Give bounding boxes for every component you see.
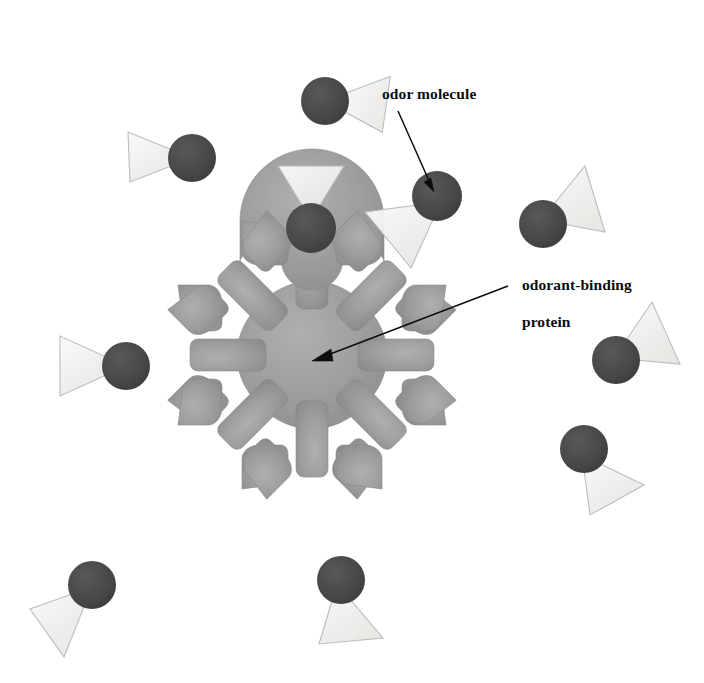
odor-molecule-circle bbox=[168, 134, 216, 182]
odor-molecule-circle bbox=[560, 425, 608, 473]
odor-molecule-label: odor molecule bbox=[382, 85, 476, 103]
odor-molecule[interactable] bbox=[317, 556, 383, 644]
odor-molecule-circle bbox=[412, 171, 462, 221]
odor-molecule-circle bbox=[317, 556, 365, 604]
odorant-binding-protein-label: odorant-binding protein bbox=[506, 258, 632, 349]
odor-molecule[interactable] bbox=[519, 166, 605, 248]
odor-molecule-circle bbox=[102, 342, 150, 390]
odor-molecule-circle bbox=[301, 77, 349, 125]
odor-molecule[interactable] bbox=[30, 561, 116, 657]
odor-molecule-leader bbox=[398, 111, 434, 192]
odor-molecule-circle bbox=[519, 200, 567, 248]
odor-molecule-circle bbox=[286, 203, 336, 253]
odor-molecule-circle bbox=[68, 561, 116, 609]
odor-molecule[interactable] bbox=[301, 63, 414, 149]
odor-molecule[interactable] bbox=[560, 425, 644, 515]
obp-label-line-1: odorant-binding bbox=[522, 276, 632, 293]
obp-label-line-2: protein bbox=[522, 313, 571, 330]
diagram-canvas: odor molecule odorant-binding protein bbox=[0, 0, 704, 683]
odor-molecule[interactable] bbox=[60, 336, 150, 396]
odor-molecule[interactable] bbox=[128, 132, 216, 182]
